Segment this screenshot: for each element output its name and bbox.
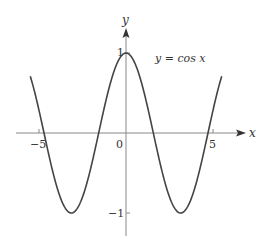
- x-tick-label-5: 5: [209, 138, 216, 151]
- function-label: y = cos x: [154, 52, 206, 65]
- y-tick-label-neg1: −1: [108, 207, 124, 220]
- x-tick-label-neg5: −5: [30, 138, 46, 151]
- origin-label: 0: [116, 138, 123, 151]
- cosine-chart: x y −5 5 0 1 −1 y = cos x: [0, 0, 264, 240]
- x-axis-label: x: [249, 126, 256, 140]
- y-axis-label: y: [121, 13, 129, 27]
